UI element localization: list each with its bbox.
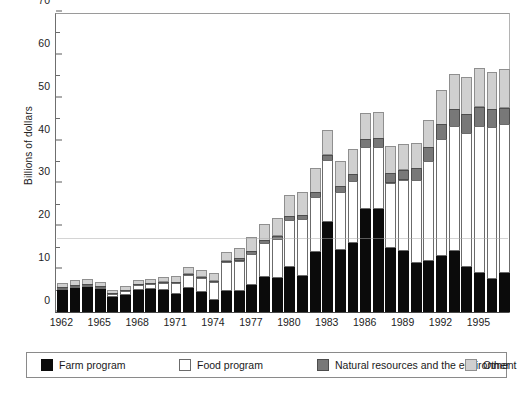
bar-segment [411, 143, 422, 169]
bar-1964 [82, 280, 93, 312]
bar-segment [436, 139, 447, 256]
y-axis-tick-label: 10 [38, 251, 50, 263]
bar-segment [95, 289, 106, 312]
bar-segment [461, 77, 472, 116]
bar-segment [398, 144, 409, 171]
bar-segment [133, 290, 144, 312]
bar-segment [348, 181, 359, 243]
x-axis-tick-label: 1974 [201, 316, 224, 328]
bar-segment [107, 297, 118, 312]
x-axis-tick-label: 1989 [391, 316, 414, 328]
bar-segment [171, 283, 182, 294]
bar-segment [398, 180, 409, 251]
bar-segment [423, 147, 434, 162]
bar-segment [423, 261, 434, 312]
bar-segment [310, 168, 321, 193]
bar-1981 [297, 193, 308, 312]
legend-label: Food program [197, 359, 263, 371]
bar-segment [411, 263, 422, 312]
bar-segment [411, 168, 422, 180]
bar-segment [259, 224, 270, 241]
y-axis-tick-label: 70 [38, 0, 50, 6]
bar-segment [221, 291, 232, 312]
bar-segment [449, 109, 460, 127]
x-axis-tick-label: 1980 [277, 316, 300, 328]
bar-1982 [310, 169, 321, 312]
x-axis-tick-label: 1995 [467, 316, 490, 328]
bar-1994 [461, 77, 472, 312]
bar-segment [461, 133, 472, 267]
bar-segment [461, 114, 472, 134]
bar-segment [297, 219, 308, 276]
y-axis-tick-label: 0 [44, 294, 50, 306]
y-axis-tick-label: 50 [38, 80, 50, 92]
bar-1990 [411, 144, 422, 312]
bar-segment [310, 252, 321, 312]
bar-segment [474, 126, 485, 273]
x-axis-tick-label: 1977 [239, 316, 262, 328]
bar-1993 [449, 75, 460, 312]
y-axis-title: Billions of dollars [23, 56, 34, 236]
bar-segment [436, 256, 447, 312]
bar-1969 [145, 279, 156, 312]
bar-segment [82, 287, 93, 312]
plot-area: 010203040506070 [55, 13, 510, 313]
chart-legend: Farm programFood programNatural resource… [26, 352, 507, 378]
bar-segment [373, 209, 384, 312]
bar-segment [209, 300, 220, 312]
bar-1992 [436, 91, 447, 312]
bar-segment [284, 195, 295, 216]
bar-1995 [474, 69, 485, 312]
legend-item-food-program: Food program [179, 359, 263, 371]
bar-segment [474, 107, 485, 128]
bar-segment [297, 192, 308, 216]
bar-segment [259, 243, 270, 277]
x-axis-tick-label: 1962 [50, 316, 73, 328]
bar-segment [259, 277, 270, 312]
y-axis-tick-label: 60 [38, 37, 50, 49]
bar-segment [411, 180, 422, 263]
bar-segment [209, 282, 220, 300]
bar-segment [196, 278, 207, 292]
bar-1970 [158, 278, 169, 312]
bar-1984 [335, 161, 346, 312]
bar-segment [360, 209, 371, 312]
legend-item-farm-program: Farm program [41, 359, 126, 371]
bar-segment [272, 218, 283, 237]
bar-segment [499, 124, 510, 273]
bar-segment [373, 147, 384, 209]
bar-1987 [373, 113, 384, 312]
bar-segment [335, 192, 346, 250]
bar-segment [449, 74, 460, 110]
bar-segment [436, 124, 447, 139]
bar-1972 [183, 268, 194, 312]
bar-1983 [322, 131, 333, 312]
bar-1974 [209, 274, 220, 312]
y-axis-tick-label: 30 [38, 165, 50, 177]
bar-segment [322, 130, 333, 156]
bar-1977 [246, 238, 257, 312]
bar-segment [183, 288, 194, 312]
bar-1988 [385, 147, 396, 312]
bar-1973 [196, 271, 207, 312]
x-axis-tick-label: 1983 [315, 316, 338, 328]
bar-segment [499, 108, 510, 126]
bar-segment [183, 275, 194, 289]
bars-container [56, 14, 509, 312]
bar-segment [474, 68, 485, 107]
stacked-bar-chart-figure: Billions of dollars 010203040506070 1962… [0, 0, 527, 393]
bar-segment [487, 127, 498, 278]
x-axis-tick-label: 1986 [353, 316, 376, 328]
bar-segment [487, 279, 498, 312]
bar-segment [348, 243, 359, 312]
bar-1975 [221, 253, 232, 312]
legend-label: Other [483, 359, 509, 371]
bar-segment [158, 290, 169, 312]
x-axis-tick-label: 1968 [125, 316, 148, 328]
bar-1963 [70, 281, 81, 312]
bar-segment [398, 251, 409, 312]
bar-segment [461, 267, 472, 312]
bar-segment [487, 72, 498, 110]
legend-label: Farm program [59, 359, 126, 371]
bar-segment [449, 126, 460, 250]
